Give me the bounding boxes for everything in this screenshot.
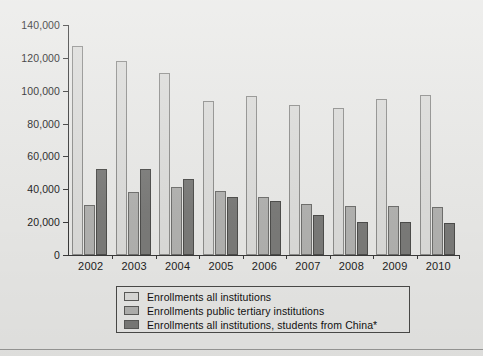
bar [333,108,344,255]
bar [258,197,269,255]
y-axis-tick-label: 20,000 [0,216,60,228]
bar [227,197,238,255]
bar-group [286,25,329,255]
x-axis-label: 2003 [112,260,156,272]
y-axis-tick-label: 140,000 [0,19,60,31]
bar [388,206,399,255]
bar [183,179,194,255]
bar-group [243,25,286,255]
plot-area [69,25,460,255]
y-axis-tick-label: 120,000 [0,52,60,64]
legend-item: Enrollments all institutions [124,290,409,303]
x-axis-label: 2004 [156,260,200,272]
y-axis-tick-label-text: 140,000 [4,19,60,31]
x-axis-label: 2006 [243,260,287,272]
y-axis-tick [63,255,68,256]
legend-swatch-icon [124,306,139,315]
bar [400,222,411,255]
bar-chart: 020,00040,00060,00080,000100,000120,0001… [0,0,483,283]
bar [432,207,443,255]
y-axis-tick-label: 60,000 [0,150,60,162]
bar [246,96,257,255]
bar [313,215,324,255]
x-axis-group-tick [112,255,113,259]
x-axis-label: 2002 [69,260,113,272]
bar [84,205,95,255]
y-axis-tick-label-text: 60,000 [4,150,60,162]
y-axis-tick-label-text: 0 [4,249,60,261]
x-axis-group-tick [330,255,331,259]
y-axis-tick-label-text: 80,000 [4,118,60,130]
y-axis-tick [63,222,68,223]
x-axis-line [68,255,460,256]
legend-item-label: Enrollments all institutions, students f… [147,319,377,331]
legend-item: Enrollments all institutions, students f… [124,318,409,331]
x-axis-label: 2010 [416,260,460,272]
y-axis-tick [63,124,68,125]
x-axis-group-tick [459,255,460,259]
y-axis-tick-label: 80,000 [0,118,60,130]
bar [376,99,387,255]
bar [215,191,226,255]
bar [420,95,431,255]
y-axis-tick-label-text: 20,000 [4,216,60,228]
bar [289,105,300,255]
bar-group [417,25,460,255]
y-axis-tick-label: 100,000 [0,85,60,97]
x-axis-label: 2005 [199,260,243,272]
x-axis-group-tick [373,255,374,259]
bar [357,222,368,255]
page-divider [0,349,483,350]
y-axis-tick-label-text: 120,000 [4,52,60,64]
x-axis-label: 2007 [286,260,330,272]
bar [203,101,214,255]
x-axis-group-tick [417,255,418,259]
bar-group [156,25,199,255]
bar [116,61,127,255]
y-axis-tick [63,156,68,157]
x-axis-group-tick [156,255,157,259]
y-axis-tick [63,25,68,26]
x-axis-label: 2009 [373,260,417,272]
bar [171,187,182,255]
y-axis-tick [63,91,68,92]
chart-page: 020,00040,00060,00080,000100,000120,0001… [0,0,483,356]
legend-swatch-icon [124,320,139,329]
y-axis-tick [63,189,68,190]
bar [270,201,281,255]
bar [96,169,107,255]
legend-swatch-icon [124,292,139,301]
x-axis-group-tick [199,255,200,259]
bar [159,73,170,255]
bar [72,46,83,255]
y-axis-tick [63,58,68,59]
legend-item: Enrollments public tertiary institutions [124,304,409,317]
bar-group [373,25,416,255]
bar [345,206,356,255]
legend-item-label: Enrollments all institutions [147,291,271,303]
y-axis-tick-label: 40,000 [0,183,60,195]
bar [444,223,455,255]
x-axis-group-tick [286,255,287,259]
y-axis-tick-label: 0 [0,249,60,261]
chart-legend: Enrollments all institutionsEnrollments … [116,286,410,333]
bar-group [112,25,155,255]
bar-group [69,25,112,255]
bar [128,192,139,255]
x-axis-label: 2008 [329,260,373,272]
y-axis-tick-label-text: 100,000 [4,85,60,97]
x-axis-group-tick [243,255,244,259]
bar [301,204,312,255]
bar [140,169,151,255]
legend-item-label: Enrollments public tertiary institutions [147,305,324,317]
bar-group [330,25,373,255]
bar-group [199,25,242,255]
y-axis-tick-label-text: 40,000 [4,183,60,195]
